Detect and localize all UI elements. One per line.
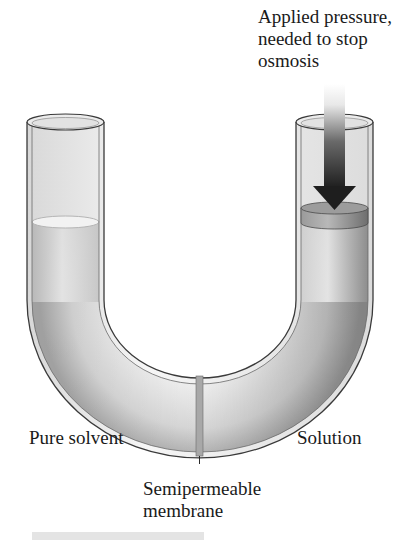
tube-outline-inner [104, 122, 296, 378]
tube-inner-wall-inner [99, 125, 301, 384]
applied-pressure-line-1: Applied pressure, [258, 6, 392, 28]
left-liquid-column [32, 222, 99, 302]
applied-pressure-label: Applied pressure, needed to stop osmosis [258, 6, 392, 72]
membrane-label: Semipermeable membrane [143, 478, 261, 522]
membrane-label-line-1: Semipermeable [143, 478, 261, 500]
u-tube-diagram [0, 0, 416, 540]
pure-solvent-label: Pure solvent [29, 427, 123, 449]
bottom-gray-bar [32, 532, 204, 540]
solution-label: Solution [297, 427, 361, 449]
pure-solvent-surface [32, 216, 99, 228]
right-liquid-column [301, 220, 368, 302]
semipermeable-membrane [196, 376, 203, 456]
applied-pressure-line-2: needed to stop [258, 28, 392, 50]
left-tube-opening [32, 118, 99, 129]
applied-pressure-line-3: osmosis [258, 50, 392, 72]
membrane-label-line-2: membrane [143, 500, 261, 522]
